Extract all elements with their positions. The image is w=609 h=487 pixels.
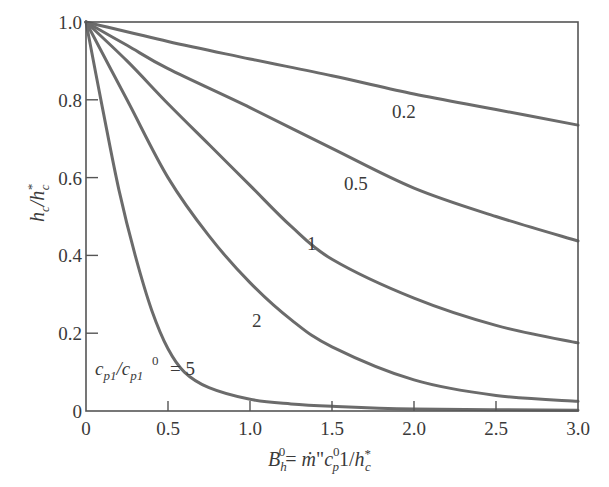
y-axis-label: hc/h*c [24, 184, 52, 222]
svg-text:Bh0= ṁ"c0p1/h*c: Bh0= ṁ"c0p1/h*c [268, 444, 371, 474]
curve-2 [86, 22, 578, 401]
x-tick-label: 1.5 [320, 418, 344, 439]
curves-group [86, 22, 578, 410]
y-axis-ticks: 00.20.40.60.81.0 [58, 12, 98, 422]
curve-label-0-2: 0.2 [392, 101, 416, 122]
curve-0-5 [86, 22, 578, 241]
parameter-label: cp1/cp1 0 = 5 [95, 353, 195, 383]
svg-text:0: 0 [152, 353, 159, 368]
svg-text:= 5: = 5 [170, 358, 195, 379]
curve-label-0-5: 0.5 [344, 173, 368, 194]
x-tick-label: 1.0 [238, 418, 262, 439]
y-tick-label: 1.0 [58, 12, 82, 33]
plot-frame [86, 22, 578, 411]
y-tick-label: 0 [73, 401, 83, 422]
x-axis-label: Bh0= ṁ"c0p1/h*c [268, 444, 371, 474]
x-tick-label: 2.5 [484, 418, 508, 439]
x-tick-label: 3.0 [566, 418, 590, 439]
x-tick-label: 2.0 [402, 418, 426, 439]
y-tick-label: 0.4 [58, 245, 82, 266]
svg-text:cp1/cp1: cp1/cp1 [95, 358, 143, 383]
svg-text:hc/h*c: hc/h*c [24, 184, 52, 222]
curve-0-2 [86, 22, 578, 125]
y-tick-label: 0.2 [58, 323, 82, 344]
curve-label-1: 1 [307, 233, 317, 254]
y-tick-label: 0.8 [58, 90, 82, 111]
curve-label-2: 2 [252, 310, 262, 331]
y-tick-label: 0.6 [58, 168, 82, 189]
curve-1 [86, 22, 578, 343]
chart: 00.51.01.52.02.53.0 00.20.40.60.81.0 0.2… [0, 0, 609, 487]
curve-5 [86, 22, 578, 410]
x-tick-label: 0.5 [156, 418, 180, 439]
x-tick-label: 0 [81, 418, 91, 439]
